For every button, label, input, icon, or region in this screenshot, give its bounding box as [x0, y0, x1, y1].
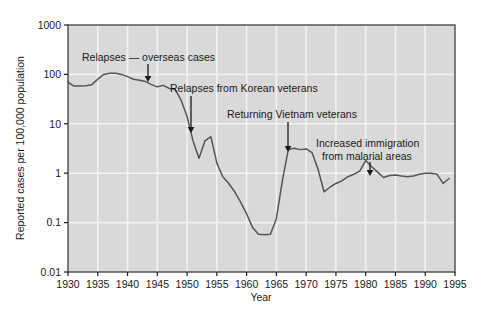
annotation-label-line1: Increased immigration [316, 137, 419, 149]
x-tick-label: 1995 [443, 278, 467, 290]
x-tick-label: 1960 [235, 278, 259, 290]
y-tick-label: 0.1 [46, 216, 61, 228]
x-tick-label: 1940 [116, 278, 140, 290]
x-tick-label: 1950 [175, 278, 199, 290]
x-tick-label: 1980 [354, 278, 378, 290]
x-tick-label: 1975 [324, 278, 348, 290]
x-tick-label: 1945 [146, 278, 170, 290]
y-tick-label: 100 [43, 68, 61, 80]
x-tick-label: 1955 [205, 278, 229, 290]
x-axis-title: Year [250, 291, 272, 303]
annotation-label: Returning Vietnam veterans [227, 108, 357, 120]
x-tick-label: 1965 [265, 278, 289, 290]
x-tick-label: 1990 [414, 278, 438, 290]
chart-container: 0.010.11101001000 1930193519401945195019… [0, 0, 490, 311]
y-tick-label: 10 [49, 118, 61, 130]
y-tick-label: 1000 [38, 19, 62, 31]
y-axis-title: Reported cases per 100,000 population [14, 56, 26, 240]
y-tick-label: 1 [55, 167, 61, 179]
x-tick-label: 1930 [56, 278, 80, 290]
x-tick-label: 1935 [86, 278, 110, 290]
x-tick-label: 1985 [384, 278, 408, 290]
annotation-label: Relapses from Korean veterans [170, 82, 318, 94]
annotation-label-line2: from malarial areas [322, 150, 412, 162]
x-tick-label: 1970 [294, 278, 318, 290]
annotation-label: Relapses — overseas cases [82, 51, 215, 63]
y-tick-label: 0.01 [41, 266, 62, 278]
malaria-cases-line-chart: 0.010.11101001000 1930193519401945195019… [0, 0, 490, 311]
